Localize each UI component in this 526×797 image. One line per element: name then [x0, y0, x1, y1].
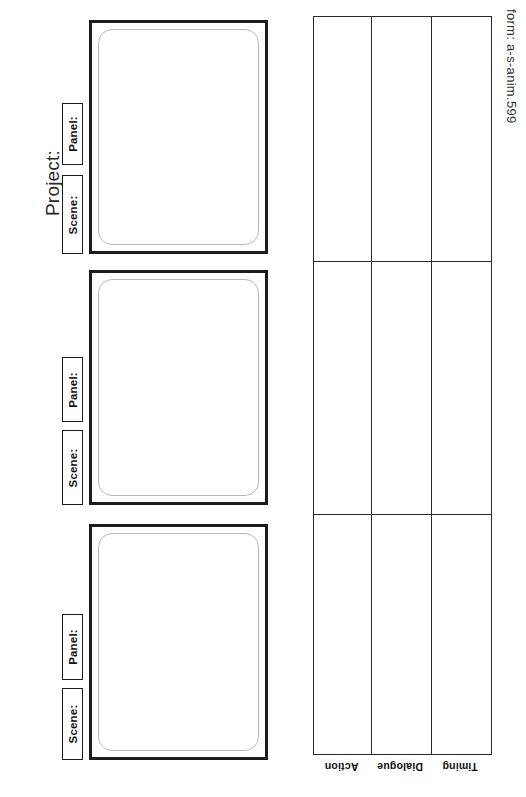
panel-1-panel-label: Panel:	[67, 116, 79, 152]
panel-1-scene-field[interactable]: Scene:	[62, 175, 83, 254]
storyboard-sheet: Project: form: a-s-anim.599 Panel: Scene…	[0, 0, 526, 797]
notes-cell-r1-dialogue[interactable]	[371, 17, 431, 261]
panel-2-panel-field[interactable]: Panel:	[62, 357, 83, 422]
panel-1-panel-field[interactable]: Panel:	[62, 103, 83, 165]
storyboard-panel-3-frame[interactable]	[89, 524, 268, 760]
notes-header-dialogue: Dialogue	[370, 757, 430, 777]
notes-cell-r3-timing[interactable]	[431, 514, 491, 753]
panel-3-scene-field[interactable]: Scene:	[62, 688, 83, 760]
panel-3-panel-label: Panel:	[67, 629, 79, 665]
notes-cell-r2-action[interactable]	[314, 261, 371, 514]
panel-2-scene-field[interactable]: Scene:	[62, 430, 83, 505]
storyboard-panel-1-drawing-area[interactable]	[98, 29, 259, 245]
notes-header-timing: Timing	[430, 757, 490, 777]
notes-cell-r3-action[interactable]	[314, 514, 371, 753]
notes-header-action: Action	[313, 757, 370, 777]
storyboard-panel-2-frame[interactable]	[89, 270, 268, 505]
notes-cell-r2-timing[interactable]	[431, 261, 491, 514]
panel-2-panel-label: Panel:	[67, 372, 79, 408]
storyboard-panel-1-frame[interactable]	[89, 20, 268, 254]
notes-cell-r1-action[interactable]	[314, 17, 371, 261]
panel-2-scene-label: Scene:	[67, 448, 79, 487]
form-code-label: form: a-s-anim.599	[501, 9, 523, 129]
notes-cell-r1-timing[interactable]	[431, 17, 491, 261]
storyboard-panel-2-drawing-area[interactable]	[98, 279, 259, 496]
storyboard-panel-3-drawing-area[interactable]	[98, 533, 259, 751]
notes-cell-r2-dialogue[interactable]	[371, 261, 431, 514]
notes-grid-headers: Action Dialogue Timing	[313, 757, 492, 777]
panel-3-scene-label: Scene:	[67, 705, 79, 744]
panel-1-scene-label: Scene:	[67, 195, 79, 234]
panel-3-panel-field[interactable]: Panel:	[62, 614, 83, 680]
notes-cell-r3-dialogue[interactable]	[371, 514, 431, 753]
notes-grid	[313, 16, 492, 755]
